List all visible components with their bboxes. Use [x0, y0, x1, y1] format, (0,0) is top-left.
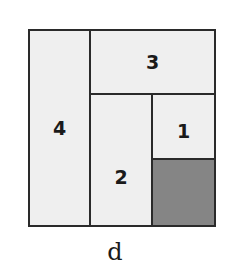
cell-4-label: 4: [53, 117, 66, 139]
cell-1: 1: [151, 93, 216, 160]
cell-2: 2: [89, 93, 153, 227]
cell-4: 4: [28, 29, 91, 227]
cell-3-label: 3: [146, 51, 159, 73]
cell-1-label: 1: [177, 120, 190, 142]
cell-2-label: 2: [114, 166, 127, 188]
cell-3: 3: [89, 29, 216, 95]
figure-caption: d: [0, 238, 230, 266]
cell-shaded: [151, 158, 216, 227]
